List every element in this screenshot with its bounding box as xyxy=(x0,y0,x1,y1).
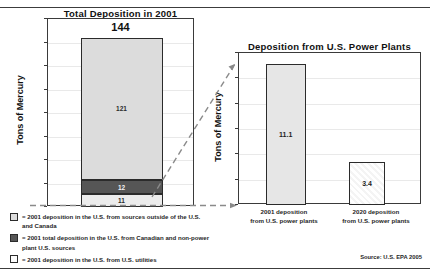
figure-root: Total Deposition in 2001 Tons of Mercury… xyxy=(0,0,430,275)
x-label-2001-line1: 2001 deposition xyxy=(238,208,330,217)
legend-swatch-utilities-icon xyxy=(10,255,18,263)
right-y-axis-title: Tons of Mercury xyxy=(213,67,223,187)
legend-item-us-utilities: = 2001 deposition in the U.S. from U.S. … xyxy=(10,255,210,264)
bottom-divider xyxy=(0,268,430,269)
y-tick-mark xyxy=(44,206,47,207)
x-label-2001: 2001 deposition from U.S. power plants xyxy=(238,208,330,226)
x-label-2020-line1: 2020 deposition xyxy=(330,208,422,217)
legend-swatch-outside-icon xyxy=(10,213,18,221)
x-label-2001-line2: from U.S. power plants xyxy=(238,217,330,226)
source-note: Source: U.S. EPA 2005 xyxy=(300,254,422,260)
stacked-bar-2001[interactable]: 121 12 11 xyxy=(81,38,163,207)
legend-swatch-nonpower-icon xyxy=(10,234,18,242)
x-label-2020: 2020 deposition from U.S. power plants xyxy=(330,208,422,226)
legend: = 2001 deposition in the U.S. from sourc… xyxy=(10,212,210,267)
segment-outside-label: 121 xyxy=(116,105,127,112)
right-chart-title: Deposition from U.S. Power Plants xyxy=(238,41,421,52)
right-plot-area: 11.1 3.4 xyxy=(238,52,421,204)
segment-canadian-nonpower[interactable]: 12 xyxy=(81,180,163,194)
legend-label-nonpower: = 2001 total deposition in the U.S. from… xyxy=(22,233,210,251)
y-tick-mark xyxy=(235,204,238,205)
legend-label-utilities: = 2001 deposition in the U.S. from U.S. … xyxy=(22,255,157,264)
segment-utilities-label: 11 xyxy=(118,197,125,204)
total-value-label: 144 xyxy=(91,21,151,33)
left-plot-area: 121 12 11 xyxy=(47,18,194,206)
x-label-2020-line2: from U.S. power plants xyxy=(330,217,422,226)
legend-label-outside: = 2001 deposition in the U.S. from sourc… xyxy=(22,212,210,230)
bar-2020-value-label: 3.4 xyxy=(362,180,372,187)
connector-diagonal-arrow xyxy=(229,64,236,71)
segment-us-utilities[interactable]: 11 xyxy=(81,194,163,207)
left-y-axis-title: Tons of Mercury xyxy=(15,50,25,170)
segment-nonpower-label: 12 xyxy=(118,184,125,191)
bar-2020-power-plants[interactable]: 3.4 xyxy=(349,162,385,205)
legend-item-canadian-nonpower: = 2001 total deposition in the U.S. from… xyxy=(10,233,210,251)
legend-item-outside-us-canada: = 2001 deposition in the U.S. from sourc… xyxy=(10,212,210,230)
bar-2001-power-plants[interactable]: 11.1 xyxy=(266,64,306,205)
segment-outside-us-canada[interactable]: 121 xyxy=(81,38,163,180)
bar-2001-value-label: 11.1 xyxy=(279,131,292,138)
